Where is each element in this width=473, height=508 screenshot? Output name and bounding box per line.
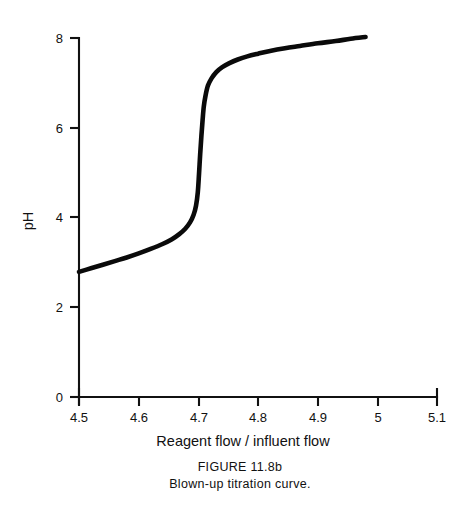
y-tick-label-8: 8	[56, 31, 63, 46]
titration-curve-line	[79, 37, 366, 272]
y-tick-label-2: 2	[56, 300, 63, 315]
figure-container: 8 6 4 2 0 4.5 4.6 4.7 4.8 4.9 5 5.1	[0, 0, 473, 508]
y-axis-tick-labels: 8 6 4 2 0	[56, 31, 63, 405]
x-axis-tick-labels: 4.5 4.6 4.7 4.8 4.9 5 5.1	[70, 410, 446, 425]
y-axis-title: pH	[20, 212, 36, 231]
x-tick-label-4-9: 4.9	[309, 410, 327, 425]
x-tick-label-5-0: 5	[374, 410, 381, 425]
y-tick-label-6: 6	[56, 121, 63, 136]
x-tick-label-4-5: 4.5	[70, 410, 88, 425]
x-tick-label-4-6: 4.6	[130, 410, 148, 425]
x-tick-label-4-7: 4.7	[190, 410, 208, 425]
y-tick-label-0: 0	[56, 390, 63, 405]
y-tick-label-4: 4	[56, 210, 63, 225]
x-tick-label-4-8: 4.8	[249, 410, 267, 425]
y-axis-ticks	[70, 38, 79, 397]
figure-caption-title: FIGURE 11.8b	[198, 460, 283, 474]
x-tick-label-5-1: 5.1	[428, 410, 446, 425]
titration-chart: 8 6 4 2 0 4.5 4.6 4.7 4.8 4.9 5 5.1	[0, 0, 473, 508]
x-axis-title: Reagent flow / influent flow	[156, 433, 330, 449]
figure-caption-subtitle: Blown-up titration curve.	[169, 477, 311, 491]
